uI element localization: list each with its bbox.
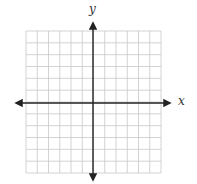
grid-svg [0,0,197,184]
y-axis-label: y [89,2,96,16]
x-axis-label: x [178,94,185,108]
